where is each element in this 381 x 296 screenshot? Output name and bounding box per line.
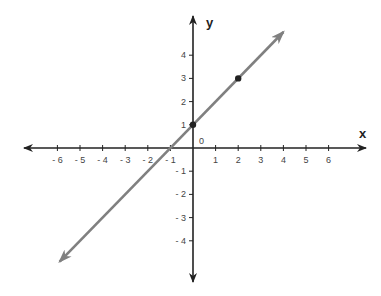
y-tick-label: 2 xyxy=(181,97,186,107)
x-tick-label: 1 xyxy=(213,155,218,165)
x-tick-label: - 1 xyxy=(165,155,176,165)
origin-label: 0 xyxy=(199,136,204,146)
line-series xyxy=(60,32,284,262)
x-tick-label: - 5 xyxy=(75,155,86,165)
x-tick-label: - 6 xyxy=(52,155,63,165)
y-tick-label: 1 xyxy=(181,120,186,130)
y-tick-label: - 3 xyxy=(175,213,186,223)
x-tick-label: - 3 xyxy=(120,155,131,165)
y-tick-label: 4 xyxy=(181,50,186,60)
y-tick-label: - 1 xyxy=(175,166,186,176)
y-tick-label: - 2 xyxy=(175,189,186,199)
x-tick-label: 4 xyxy=(281,155,286,165)
x-tick-label: 6 xyxy=(326,155,331,165)
x-axis: - 6- 5- 4- 3- 2- 1123456 x 0 xyxy=(24,126,367,165)
x-axis-label: x xyxy=(359,126,367,141)
coordinate-plane: - 6- 5- 4- 3- 2- 1123456 x 0 - 4- 3- 2- … xyxy=(0,0,381,296)
data-point xyxy=(235,75,241,81)
data-point xyxy=(190,122,196,128)
x-tick-label: 5 xyxy=(303,155,308,165)
x-tick-label: 3 xyxy=(258,155,263,165)
y-tick-label: 3 xyxy=(181,73,186,83)
line-arrow-up-right-icon xyxy=(172,32,284,147)
x-tick-label: 2 xyxy=(236,155,241,165)
x-tick-label: - 2 xyxy=(143,155,154,165)
y-axis-label: y xyxy=(206,15,214,30)
y-tick-label: - 4 xyxy=(175,236,186,246)
x-tick-label: - 4 xyxy=(97,155,108,165)
